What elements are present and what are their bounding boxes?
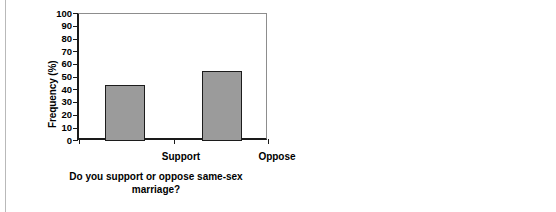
chart-panel-full-scale: Frequency (%) 1009080706050403020100 Sup… <box>0 0 278 212</box>
plot-area-left <box>77 13 267 140</box>
y-tick-label: 20 <box>61 110 72 119</box>
y-tick-label: 80 <box>61 34 72 43</box>
y-tick-label: 60 <box>61 59 72 68</box>
x-axis-title-left-line1: Do you support or oppose same-sex <box>44 170 268 183</box>
y-tick-label: 90 <box>61 21 72 30</box>
x-tick-mark <box>174 139 175 144</box>
y-tick-label: 0 <box>67 136 72 145</box>
y-tick-mark <box>73 77 78 78</box>
x-category-label-support-left: Support <box>146 151 216 162</box>
x-tick-mark <box>79 139 80 144</box>
y-axis-tick-labels-left: 1009080706050403020100 <box>46 13 72 140</box>
bar-oppose <box>202 71 242 141</box>
chart-panel-truncated-scale: Frequency (%) 6055504540 Support Oppose … <box>278 0 556 212</box>
y-tick-mark <box>73 102 78 103</box>
y-tick-mark <box>73 64 78 65</box>
y-tick-label: 50 <box>61 72 72 81</box>
y-tick-label: 40 <box>61 85 72 94</box>
y-tick-mark <box>73 13 78 14</box>
y-tick-mark <box>73 39 78 40</box>
y-tick-label: 70 <box>61 47 72 56</box>
y-tick-label: 100 <box>56 9 72 18</box>
bar-chart-pair: Frequency (%) 1009080706050403020100 Sup… <box>0 0 556 212</box>
y-tick-mark <box>73 140 78 141</box>
x-tick-mark <box>268 139 269 144</box>
y-tick-mark <box>73 26 78 27</box>
y-tick-label: 30 <box>61 97 72 106</box>
y-tick-mark <box>73 89 78 90</box>
y-tick-mark <box>73 115 78 116</box>
bar-support <box>105 85 145 141</box>
y-tick-mark <box>73 51 78 52</box>
y-tick-mark <box>73 128 78 129</box>
x-axis-title-left: Do you support or oppose same-sex marria… <box>44 170 268 196</box>
x-axis-title-left-line2: marriage? <box>44 183 268 196</box>
y-tick-label: 10 <box>61 123 72 132</box>
